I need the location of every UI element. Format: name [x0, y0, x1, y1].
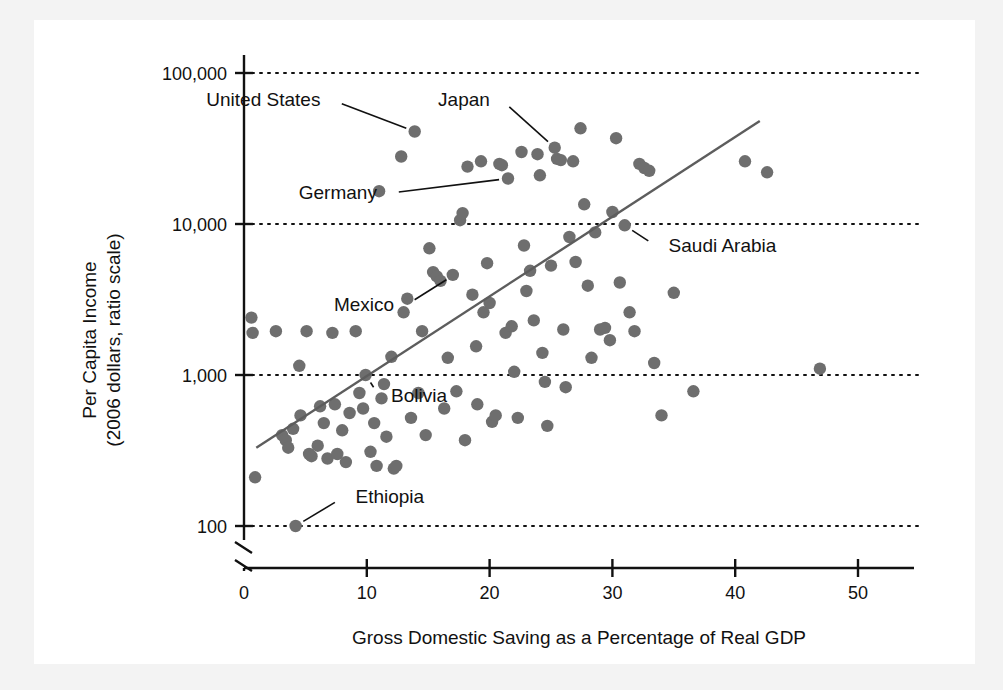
data-point	[506, 320, 518, 332]
data-point	[515, 146, 527, 158]
data-point	[305, 450, 317, 462]
y-axis-title-line1: Per Capita Income	[79, 261, 100, 418]
data-point	[357, 402, 369, 414]
axis-titles: Gross Domestic Saving as a Percentage of…	[79, 233, 806, 648]
x-tick-label: 30	[602, 583, 622, 603]
y-axis: 1001,00010,000100,000	[162, 55, 253, 571]
data-point	[312, 440, 324, 452]
data-point	[378, 378, 390, 390]
data-point	[318, 417, 330, 429]
data-point	[541, 420, 553, 432]
figure-page: 1001,00010,000100,000 01020304050 United…	[0, 0, 1003, 690]
data-point	[536, 347, 548, 359]
data-point	[534, 169, 546, 181]
data-point	[246, 327, 258, 339]
data-point	[293, 360, 305, 372]
data-point	[585, 352, 597, 364]
data-point	[459, 434, 471, 446]
scatter-chart: 1001,00010,000100,000 01020304050 United…	[34, 20, 975, 664]
data-point	[549, 142, 561, 154]
y-tick-label: 1,000	[182, 366, 227, 386]
chart-svg: 1001,00010,000100,000 01020304050 United…	[34, 20, 975, 664]
data-point	[528, 314, 540, 326]
data-point	[655, 409, 667, 421]
data-point	[814, 363, 826, 375]
data-point	[531, 148, 543, 160]
annotation-leader-bolivia	[371, 383, 374, 388]
data-point	[289, 520, 301, 532]
data-point	[496, 159, 508, 171]
annotation-leader-saudi-arabia	[632, 230, 648, 241]
data-point	[249, 471, 261, 483]
annotation-leader-germany	[399, 180, 499, 192]
data-point	[569, 256, 581, 268]
data-point	[490, 409, 502, 421]
data-point	[380, 431, 392, 443]
annotation-label-ethiopia: Ethiopia	[355, 486, 424, 507]
data-point	[364, 446, 376, 458]
y-tick-label: 100,000	[162, 64, 227, 84]
annotation-label-bolivia: Bolivia	[391, 385, 447, 406]
annotation-label-united-states: United States	[206, 89, 320, 110]
x-tick-label: 10	[357, 583, 377, 603]
data-point	[466, 289, 478, 301]
y-tick-label: 100	[197, 517, 227, 537]
data-point	[761, 166, 773, 178]
data-point	[623, 306, 635, 318]
data-point	[520, 285, 532, 297]
data-point	[405, 412, 417, 424]
data-point	[397, 306, 409, 318]
data-point	[610, 132, 622, 144]
data-point	[739, 155, 751, 167]
y-axis-title-line2: (2006 dollars, ratio scale)	[103, 233, 124, 446]
data-point	[599, 322, 611, 334]
data-point	[326, 327, 338, 339]
data-point	[282, 442, 294, 454]
data-point	[420, 429, 432, 441]
regression-line	[256, 121, 760, 448]
data-point	[604, 334, 616, 346]
data-point	[461, 160, 473, 172]
data-point	[648, 357, 660, 369]
y-axis-break-icon	[235, 542, 252, 571]
data-point	[350, 325, 362, 337]
data-point	[395, 150, 407, 162]
data-point	[409, 125, 421, 137]
x-tick-label: 20	[480, 583, 500, 603]
data-point	[614, 276, 626, 288]
data-point	[343, 407, 355, 419]
data-point	[687, 385, 699, 397]
data-point	[518, 239, 530, 251]
data-point	[502, 172, 514, 184]
data-point	[512, 412, 524, 424]
data-point	[416, 325, 428, 337]
annotation-label-mexico: Mexico	[334, 294, 394, 315]
data-point	[368, 417, 380, 429]
data-point	[619, 219, 631, 231]
data-point	[270, 325, 282, 337]
data-point	[555, 154, 567, 166]
page-edge-bottom	[0, 664, 1003, 690]
annotation-leader-ethiopia	[303, 502, 335, 521]
data-point	[353, 387, 365, 399]
data-point	[245, 311, 257, 323]
page-edge-left	[0, 0, 34, 690]
data-point	[300, 325, 312, 337]
data-point	[471, 398, 483, 410]
page-edge-right	[975, 0, 1003, 690]
x-tick-label: 0	[239, 583, 249, 603]
data-point	[390, 460, 402, 472]
data-point	[456, 207, 468, 219]
data-point	[423, 242, 435, 254]
data-point	[447, 269, 459, 281]
annotation-label-saudi-arabia: Saudi Arabia	[669, 235, 777, 256]
x-tick-label: 50	[848, 583, 868, 603]
data-point	[508, 366, 520, 378]
data-point	[643, 165, 655, 177]
data-point	[545, 259, 557, 271]
data-point	[450, 385, 462, 397]
trend-line	[256, 121, 760, 448]
data-point	[442, 352, 454, 364]
annotation-label-germany: Germany	[299, 182, 378, 203]
data-point	[401, 293, 413, 305]
